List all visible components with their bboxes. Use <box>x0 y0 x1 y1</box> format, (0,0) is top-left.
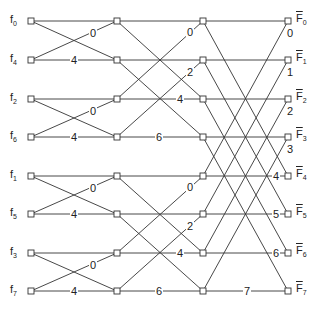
node <box>28 96 34 102</box>
twiddle-exponent-label: 4 <box>70 209 78 220</box>
output-label: F7 <box>296 283 307 298</box>
input-label: f0 <box>10 14 17 29</box>
node <box>114 250 120 256</box>
node <box>28 173 34 179</box>
node <box>200 211 206 217</box>
twiddle-exponent-label: 0 <box>186 182 194 193</box>
node <box>285 96 291 102</box>
twiddle-exponent-label: 0 <box>89 183 97 194</box>
fft-butterfly-diagram: f0f4f2f6f1f5f3f7F0F1F2F3F4F5F6F704040404… <box>0 0 319 312</box>
node <box>114 96 120 102</box>
node <box>200 18 206 24</box>
twiddle-exponent-label: 0 <box>286 28 294 39</box>
twiddle-exponent-label: 2 <box>286 106 294 117</box>
twiddle-exponent-label: 6 <box>272 248 280 259</box>
node <box>114 18 120 24</box>
output-label: F0 <box>296 13 307 28</box>
input-label: f5 <box>10 207 17 222</box>
node <box>28 211 34 217</box>
node <box>285 211 291 217</box>
input-label: f7 <box>10 284 17 299</box>
input-label: f1 <box>10 169 17 184</box>
twiddle-exponent-label: 0 <box>89 260 97 271</box>
node <box>200 250 206 256</box>
output-label: F6 <box>296 245 307 260</box>
twiddle-exponent-label: 4 <box>176 94 184 105</box>
twiddle-exponent-label: 0 <box>89 106 97 117</box>
input-label: f3 <box>10 246 17 261</box>
node <box>285 134 291 140</box>
node <box>28 250 34 256</box>
node <box>285 57 291 63</box>
twiddle-exponent-label: 7 <box>243 286 251 297</box>
input-label: f2 <box>10 92 17 107</box>
node <box>114 173 120 179</box>
twiddle-exponent-label: 6 <box>155 286 163 297</box>
node <box>114 134 120 140</box>
node <box>200 134 206 140</box>
output-label: F3 <box>296 129 307 144</box>
twiddle-exponent-label: 0 <box>186 27 194 38</box>
node <box>200 173 206 179</box>
twiddle-exponent-label: 5 <box>272 209 280 220</box>
twiddle-exponent-label: 1 <box>286 67 294 78</box>
input-label: f6 <box>10 130 17 145</box>
output-label: F2 <box>296 91 307 106</box>
node <box>285 173 291 179</box>
twiddle-exponent-label: 4 <box>70 132 78 143</box>
node <box>114 211 120 217</box>
node <box>28 288 34 294</box>
output-label: F1 <box>296 52 307 67</box>
node <box>114 57 120 63</box>
twiddle-exponent-label: 2 <box>186 221 194 232</box>
node <box>28 18 34 24</box>
twiddle-exponent-label: 3 <box>286 144 294 155</box>
node <box>28 57 34 63</box>
butterfly-graph <box>0 0 319 312</box>
twiddle-exponent-label: 4 <box>70 286 78 297</box>
node <box>200 57 206 63</box>
output-label: F4 <box>296 168 307 183</box>
node <box>285 250 291 256</box>
twiddle-exponent-label: 2 <box>186 67 194 78</box>
output-label: F5 <box>296 206 307 221</box>
node <box>114 288 120 294</box>
node <box>285 18 291 24</box>
twiddle-exponent-label: 4 <box>176 248 184 259</box>
node <box>200 96 206 102</box>
node <box>285 288 291 294</box>
twiddle-exponent-label: 6 <box>155 132 163 143</box>
twiddle-exponent-label: 4 <box>272 171 280 182</box>
twiddle-exponent-label: 4 <box>70 55 78 66</box>
twiddle-exponent-label: 0 <box>89 28 97 39</box>
node <box>200 288 206 294</box>
input-label: f4 <box>10 53 17 68</box>
node <box>28 134 34 140</box>
